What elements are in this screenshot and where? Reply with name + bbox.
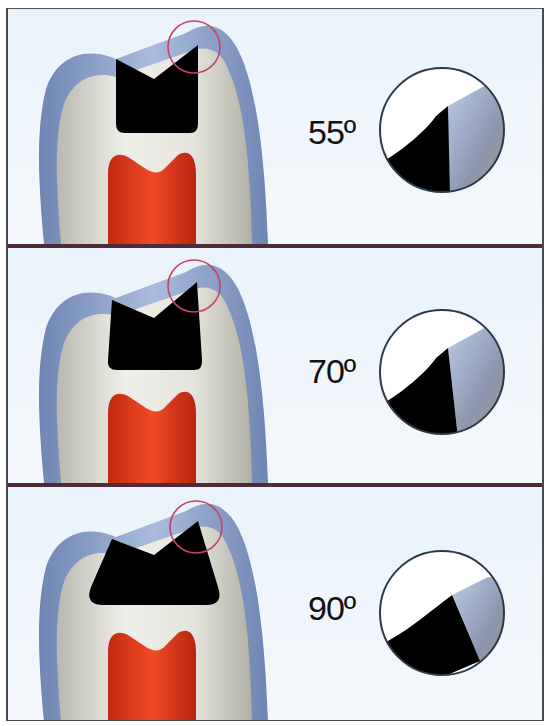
angle-label: 55º — [308, 113, 355, 152]
angle-label: 90º — [308, 589, 355, 628]
tooth-cross-section-illustration — [36, 9, 286, 244]
angle-label: 70º — [308, 352, 355, 391]
magnified-margin-detail — [378, 549, 506, 677]
panel-70-degrees: 70º — [8, 248, 542, 483]
panel-90-degrees: 90º — [8, 487, 542, 720]
figure-frame: 55º 70º — [6, 8, 544, 721]
panel-55-degrees: 55º — [8, 9, 542, 244]
tooth-cross-section-illustration — [36, 487, 286, 720]
magnified-margin-detail — [378, 308, 506, 436]
magnified-margin-detail — [378, 66, 506, 194]
tooth-cross-section-illustration — [36, 248, 286, 483]
